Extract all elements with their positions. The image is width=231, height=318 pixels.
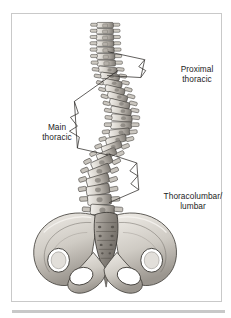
label-thoracolumbar-lumbar: Thoracolumbar/ lumbar xyxy=(150,192,231,211)
spine-column xyxy=(78,22,140,216)
figure-bottom-rule xyxy=(12,310,225,313)
label-thoracolumbar-lumbar-line2: lumbar xyxy=(150,202,231,212)
spine-illustration xyxy=(12,14,221,301)
main-thoracic-segment xyxy=(89,66,140,162)
thoracolumbar-lumbar-segment xyxy=(78,154,123,216)
figure-root: Proximal thoracic Main thoracic Thoracol… xyxy=(0,0,231,318)
figure-frame: Proximal thoracic Main thoracic Thoracol… xyxy=(11,13,222,302)
label-main-thoracic-line2: thoracic xyxy=(26,133,88,143)
label-proximal-thoracic: Proximal thoracic xyxy=(164,65,230,84)
pelvis xyxy=(34,212,177,293)
cervical-upper-thoracic-segment xyxy=(90,22,122,66)
label-proximal-thoracic-line2: thoracic xyxy=(164,75,230,85)
label-main-thoracic: Main thoracic xyxy=(26,123,88,142)
